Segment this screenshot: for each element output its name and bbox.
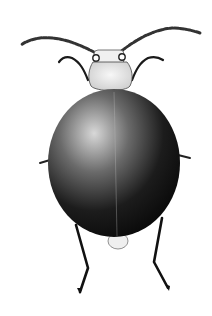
beetle-figure [0, 0, 212, 316]
tarsi [77, 284, 170, 294]
antenna-right [120, 28, 200, 52]
elytra [48, 89, 180, 237]
thorax [89, 62, 132, 91]
antenna-left [21, 38, 94, 52]
beetle-illustration [0, 0, 212, 316]
